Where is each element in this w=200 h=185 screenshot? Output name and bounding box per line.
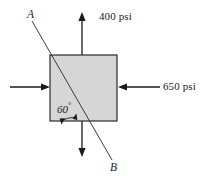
bottom-arrow (78, 121, 85, 157)
top-arrow (78, 12, 85, 55)
angle-value: 60 (57, 103, 68, 115)
stress-element-figure: 400 psi 650 psi A B 60° (0, 0, 200, 185)
angle-label: 60° (57, 102, 71, 115)
horizontal-stress-label: 650 psi (163, 81, 196, 92)
plane-point-a-label: A (27, 9, 34, 21)
degree-symbol: ° (68, 101, 71, 110)
figure-canvas (0, 0, 200, 185)
plane-point-b-label: B (110, 162, 117, 174)
left-arrow (10, 83, 50, 90)
vertical-stress-label: 400 psi (99, 11, 132, 22)
right-arrow (118, 83, 160, 90)
